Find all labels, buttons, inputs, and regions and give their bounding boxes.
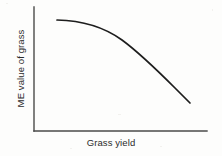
y-axis-label: ME value of grass — [15, 9, 26, 129]
figure-container: ME value of grass Grass yield — [0, 0, 222, 156]
plot-area — [0, 0, 222, 156]
me-value-curve — [57, 20, 190, 103]
x-axis-label: Grass yield — [0, 137, 222, 148]
